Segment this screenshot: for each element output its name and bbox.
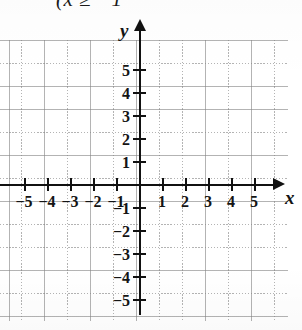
y-axis-arrow-icon: [134, 19, 146, 31]
y-tick-label: −1: [104, 201, 130, 217]
x-tick-label: −5: [12, 194, 36, 210]
y-tick-label: 4: [104, 86, 130, 102]
y-tick-mark: [133, 115, 146, 117]
y-tick-label: 5: [104, 63, 130, 79]
y-tick-mark: [133, 299, 146, 301]
y-tick-label: −3: [104, 247, 130, 263]
grid-lines: [0, 40, 288, 321]
x-tick-mark: [208, 178, 210, 191]
x-tick-label: 3: [196, 194, 220, 210]
y-tick-label: 2: [104, 132, 130, 148]
x-tick-mark: [185, 178, 187, 191]
x-tick-label: −2: [81, 194, 105, 210]
y-tick-mark: [133, 92, 146, 94]
coordinate-plane: −5 −4 −3 −2 −1 1 2 3 4 5 5 4 3 2 1 −1 −2…: [0, 28, 302, 330]
x-tick-mark: [93, 178, 95, 191]
x-tick-mark: [24, 178, 26, 191]
x-tick-label: 5: [242, 194, 266, 210]
y-tick-label: −4: [104, 270, 130, 286]
y-tick-label: 3: [104, 109, 130, 125]
x-tick-label: 1: [150, 194, 174, 210]
y-tick-mark: [133, 230, 146, 232]
y-tick-mark: [133, 138, 146, 140]
x-tick-label: 4: [219, 194, 243, 210]
y-tick-label: 1: [104, 155, 130, 171]
y-tick-label: −2: [104, 224, 130, 240]
x-tick-mark: [47, 178, 49, 191]
x-tick-mark: [116, 178, 118, 191]
y-axis-label: y: [120, 20, 128, 42]
x-axis-label: x: [285, 187, 295, 209]
x-tick-mark: [162, 178, 164, 191]
clipped-expression: (x ≥ −1: [0, 0, 302, 16]
y-tick-mark: [133, 276, 146, 278]
x-tick-label: 2: [173, 194, 197, 210]
clipped-expression-text: (x ≥ −1: [56, 0, 123, 12]
y-tick-mark: [133, 69, 146, 71]
x-tick-label: −3: [58, 194, 82, 210]
x-tick-mark: [254, 178, 256, 191]
y-tick-mark: [133, 161, 146, 163]
x-tick-label: −4: [35, 194, 59, 210]
y-axis: [139, 28, 141, 315]
y-tick-mark: [133, 207, 146, 209]
y-tick-mark: [133, 253, 146, 255]
x-tick-mark: [231, 178, 233, 191]
x-axis-arrow-icon: [273, 178, 285, 190]
y-tick-label: −5: [104, 293, 130, 309]
x-tick-mark: [70, 178, 72, 191]
